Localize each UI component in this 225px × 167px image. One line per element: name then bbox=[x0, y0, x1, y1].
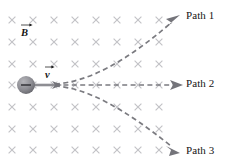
field-into-page-icon bbox=[114, 17, 121, 24]
path-3-trajectory bbox=[55, 86, 180, 156]
field-into-page-icon bbox=[30, 17, 37, 24]
path-3-label: Path 3 bbox=[186, 145, 214, 156]
path-3-arrowhead bbox=[166, 146, 180, 156]
field-into-page-icon bbox=[72, 61, 79, 68]
field-into-page-icon bbox=[9, 126, 16, 133]
path-1-label: Path 1 bbox=[186, 10, 214, 21]
path-1-trajectory bbox=[55, 15, 180, 84]
field-into-page-icon bbox=[9, 17, 16, 24]
field-into-page-icon bbox=[9, 39, 16, 46]
magnetic-field-paths-figure: B v Path 1 Path 2 Path 3 bbox=[0, 0, 225, 167]
path-1-curve bbox=[55, 22, 172, 84]
field-into-page-icon bbox=[9, 82, 16, 89]
field-into-page-icon bbox=[114, 39, 121, 46]
field-into-page-icon bbox=[72, 126, 79, 133]
field-into-page-icon bbox=[51, 39, 58, 46]
field-into-page-icon bbox=[93, 61, 100, 68]
field-into-page-icon bbox=[135, 147, 142, 154]
path-1-arrowhead bbox=[166, 15, 180, 27]
field-into-page-icon bbox=[30, 126, 37, 133]
field-into-page-icon bbox=[9, 147, 16, 154]
field-into-page-icon bbox=[156, 61, 163, 68]
field-into-page-icon bbox=[114, 126, 121, 133]
path-3-curve bbox=[55, 86, 171, 146]
field-into-page-icon bbox=[9, 61, 16, 68]
path-2-label: Path 2 bbox=[186, 78, 214, 89]
field-into-page-icon bbox=[93, 104, 100, 111]
field-into-page-icon bbox=[9, 104, 16, 111]
field-into-page-icon bbox=[135, 126, 142, 133]
magnetic-field-label: B bbox=[21, 28, 28, 39]
charged-particle bbox=[17, 76, 35, 94]
field-into-page-icon bbox=[30, 104, 37, 111]
path-2-arrowhead bbox=[170, 80, 183, 90]
field-into-page-icon bbox=[135, 61, 142, 68]
field-into-page-icon bbox=[30, 39, 37, 46]
field-into-page-icon bbox=[156, 17, 163, 24]
field-into-page-icon bbox=[114, 147, 121, 154]
field-into-page-icon bbox=[135, 104, 142, 111]
field-into-page-icon bbox=[156, 104, 163, 111]
field-into-page-icon bbox=[156, 147, 163, 154]
velocity-label: v bbox=[45, 70, 50, 81]
field-into-page-icon bbox=[156, 126, 163, 133]
field-into-page-icon bbox=[51, 147, 58, 154]
field-into-page-icon bbox=[51, 126, 58, 133]
field-into-page-icon bbox=[72, 39, 79, 46]
field-into-page-icon bbox=[135, 17, 142, 24]
field-into-page-icon bbox=[135, 39, 142, 46]
field-into-page-icon bbox=[30, 147, 37, 154]
field-into-page-icon bbox=[72, 104, 79, 111]
field-into-page-icon bbox=[51, 104, 58, 111]
field-into-page-icon bbox=[93, 17, 100, 24]
field-into-page-icon bbox=[30, 61, 37, 68]
field-into-page-icon bbox=[51, 17, 58, 24]
field-into-page-icon bbox=[156, 39, 163, 46]
field-into-page-icon bbox=[93, 126, 100, 133]
field-into-page-icon bbox=[72, 17, 79, 24]
field-into-page-icon bbox=[72, 147, 79, 154]
field-into-page-icon bbox=[93, 147, 100, 154]
field-into-page-icon bbox=[93, 39, 100, 46]
